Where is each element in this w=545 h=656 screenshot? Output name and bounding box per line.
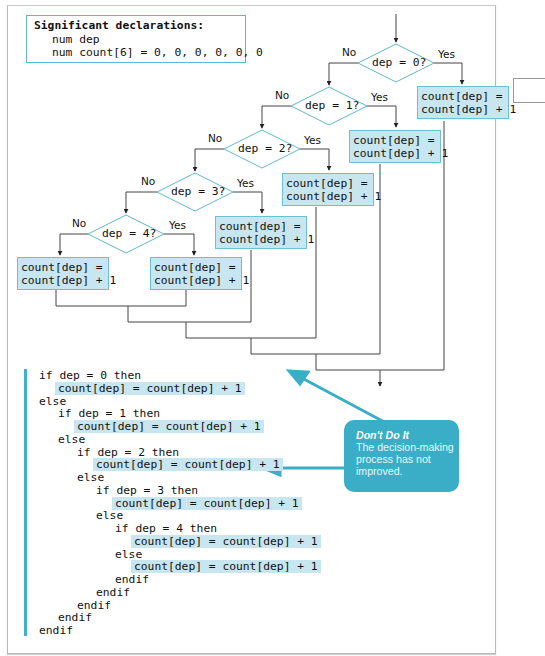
code-line: if dep = 4 then	[115, 522, 217, 535]
code-line: endif	[96, 586, 130, 599]
code-line-highlighted: count[dep] = count[dep] + 1	[112, 497, 302, 510]
code-line: if dep = 2 then	[77, 446, 179, 459]
code-line: else	[77, 471, 104, 484]
code-accent-bar	[24, 369, 27, 636]
code-line: if dep = 1 then	[58, 407, 160, 420]
decision-label-dep-4: dep = 4?	[102, 227, 156, 240]
code-line: endif	[39, 624, 73, 637]
code-line-highlighted: count[dep] = count[dep] + 1	[131, 535, 321, 548]
pseudocode-block: if dep = 0 then count[dep] = count[dep] …	[39, 370, 321, 638]
code-line: else	[115, 548, 142, 561]
no-label: No	[141, 175, 155, 187]
code-line: else	[39, 395, 66, 408]
no-label: No	[208, 132, 222, 144]
process-box-dep-4: count[dep] = count[dep] + 1	[150, 257, 242, 290]
decision-label-dep-0: dep = 0?	[372, 56, 426, 69]
decision-label-dep-2: dep = 2?	[238, 142, 292, 155]
no-label: No	[275, 89, 289, 101]
code-line-highlighted: count[dep] = count[dep] + 1	[55, 382, 245, 395]
yes-label: Yes	[237, 177, 254, 189]
code-line: endif	[77, 599, 111, 612]
code-line: if dep = 0 then	[39, 369, 141, 382]
yes-label: Yes	[304, 134, 321, 146]
decision-label-dep-3: dep = 3?	[171, 185, 225, 198]
yes-label: Yes	[169, 219, 186, 231]
process-box-dep-0: count[dep] = count[dep] + 1	[417, 86, 509, 119]
code-line-highlighted: count[dep] = count[dep] + 1	[93, 458, 283, 471]
callout-body: The decision-making process has not impr…	[356, 441, 459, 477]
process-box-dep-2: count[dep] = count[dep] + 1	[282, 173, 374, 206]
code-line: else	[58, 433, 85, 446]
code-line: else	[96, 509, 123, 522]
no-label: No	[72, 217, 86, 229]
dont-do-it-callout: Don't Do It The decision-making process …	[344, 420, 459, 492]
yes-label: Yes	[371, 91, 388, 103]
process-box-dep-3: count[dep] = count[dep] + 1	[215, 216, 307, 249]
process-box-dep-1: count[dep] = count[dep] + 1	[349, 130, 441, 163]
decision-label-dep-1: dep = 1?	[305, 99, 359, 112]
code-line-highlighted: count[dep] = count[dep] + 1	[74, 420, 264, 433]
code-line: endif	[115, 573, 149, 586]
code-line-highlighted: count[dep] = count[dep] + 1	[131, 560, 321, 573]
yes-label: Yes	[438, 48, 455, 60]
process-box-else: count[dep] = count[dep] + 1	[17, 257, 109, 290]
code-line: if dep = 3 then	[96, 484, 198, 497]
callout-title: Don't Do It	[356, 429, 459, 441]
code-line: endif	[58, 611, 92, 624]
no-label: No	[342, 46, 356, 58]
